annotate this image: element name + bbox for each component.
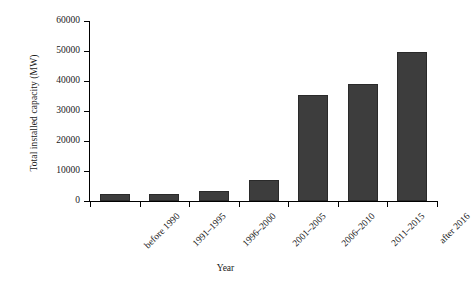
x-axis-tick	[387, 202, 388, 207]
y-axis-tick-label: 50000	[56, 46, 80, 56]
bar	[298, 95, 328, 202]
y-axis-line	[89, 21, 90, 202]
x-axis-tick	[239, 202, 240, 207]
y-axis-tick	[84, 21, 89, 22]
y-axis-tick-label: 40000	[56, 76, 80, 86]
bar	[149, 194, 179, 201]
x-axis-tick-label: 1991–1995	[191, 211, 228, 248]
y-axis-tick	[84, 141, 89, 142]
y-axis-tick	[84, 201, 89, 202]
bar	[397, 52, 427, 201]
bar	[199, 191, 229, 202]
x-axis-tick	[189, 202, 190, 207]
y-axis-tick	[84, 81, 89, 82]
y-axis-tick-label: 10000	[56, 166, 80, 176]
x-axis-tick-label: 2001–2005	[290, 211, 327, 248]
x-axis-tick	[338, 202, 339, 207]
x-axis-tick	[140, 202, 141, 207]
x-axis-tick	[288, 202, 289, 207]
bar	[100, 194, 130, 201]
x-axis-line	[89, 201, 438, 202]
y-axis-title: Total installed capacity (MW)	[29, 23, 39, 203]
x-axis-title: Year	[0, 263, 451, 273]
x-axis-tick-label: 2011–2015	[389, 211, 426, 248]
x-axis-tick	[90, 202, 91, 207]
y-axis-tick	[84, 51, 89, 52]
y-axis-tick-label: 30000	[56, 106, 80, 116]
y-axis-tick-label: 0	[75, 196, 80, 206]
x-axis-tick-label: before 1990	[142, 211, 181, 250]
y-axis-tick	[84, 111, 89, 112]
bar	[348, 84, 378, 201]
x-axis-tick-label: 1996–2000	[240, 211, 277, 248]
x-axis-tick-label: 2006–2010	[340, 211, 377, 248]
y-axis-tick	[84, 171, 89, 172]
bar	[249, 180, 279, 201]
x-axis-tick-label: after 2016	[438, 211, 472, 245]
y-axis-tick-label: 60000	[56, 16, 80, 26]
y-axis-tick-label: 20000	[56, 136, 80, 146]
x-axis-tick	[437, 202, 438, 207]
